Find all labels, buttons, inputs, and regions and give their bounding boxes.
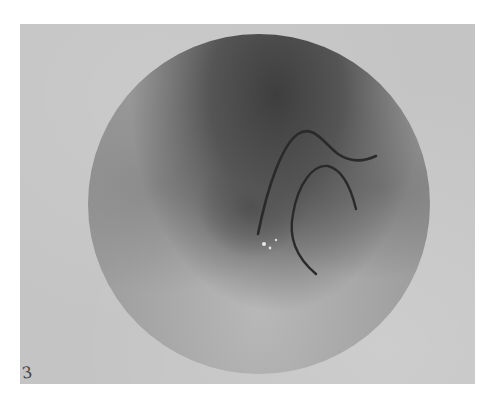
curved-structures — [88, 34, 430, 374]
circular-field-of-view — [88, 34, 430, 374]
handwritten-number: 3 — [21, 362, 34, 382]
photo-frame: 3 — [20, 24, 475, 384]
